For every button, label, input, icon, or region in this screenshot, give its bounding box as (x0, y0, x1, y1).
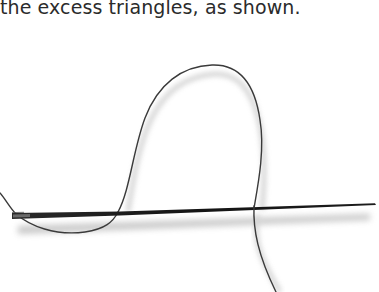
needle-and-thread-illustration (0, 0, 379, 292)
thread-loop-icon (118, 65, 262, 212)
document-page: the excess triangles, as shown. (0, 0, 379, 292)
shadow-layer (18, 74, 370, 292)
needle-eye-icon (13, 214, 30, 218)
